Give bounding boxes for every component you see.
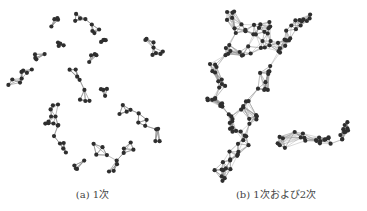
graph-node <box>227 150 231 154</box>
graph-node <box>236 150 240 154</box>
graph-node <box>220 168 224 172</box>
graph-node <box>228 167 232 171</box>
graph-node <box>25 71 29 75</box>
graph-node <box>53 114 57 118</box>
graph-node <box>258 22 262 26</box>
graph-node <box>82 88 86 92</box>
graph-node <box>156 127 160 131</box>
graph-node <box>49 107 53 111</box>
graph-node <box>293 18 297 22</box>
graph-node <box>266 70 270 74</box>
graph-node <box>30 67 34 71</box>
graph-node <box>229 114 233 118</box>
graph-node <box>247 117 251 121</box>
graph-node <box>220 82 224 86</box>
graph-node <box>210 98 214 102</box>
graph-node <box>94 153 98 157</box>
graph-node <box>161 50 165 54</box>
graph-node <box>105 153 109 157</box>
graph-node <box>239 108 243 112</box>
graph-node <box>243 28 247 32</box>
graph-node <box>301 131 305 135</box>
graph-node <box>240 54 244 58</box>
graph-node <box>260 39 264 43</box>
graph-node <box>74 68 78 72</box>
graph-node <box>252 23 256 27</box>
graph-node <box>268 25 272 29</box>
graph-node <box>232 9 236 13</box>
graph-node <box>246 44 250 48</box>
graph-node <box>322 138 326 142</box>
graph-node <box>115 162 119 166</box>
graph-node <box>51 121 55 125</box>
graph-node <box>104 38 108 42</box>
graph-node <box>338 133 342 137</box>
graph-node <box>234 31 238 35</box>
graph-node <box>224 166 228 170</box>
graph-node <box>220 78 224 82</box>
graph-node <box>301 17 305 21</box>
graph-node <box>249 51 253 55</box>
graph-node <box>232 26 236 30</box>
graph-node <box>276 41 280 45</box>
graph-node <box>220 101 224 105</box>
graph-node <box>10 77 14 81</box>
graph-node <box>284 29 288 33</box>
graph-node <box>73 19 77 23</box>
graph-node <box>137 111 141 115</box>
graph-node <box>62 141 66 145</box>
graph-node <box>217 86 221 90</box>
graph-node <box>83 17 87 21</box>
graph-node <box>230 16 234 20</box>
caption-a: (a) 1次 <box>0 186 185 201</box>
graph-node <box>43 52 47 56</box>
graph-node <box>302 136 306 140</box>
network-b-svg <box>185 0 367 185</box>
graph-node <box>51 103 55 107</box>
graph-node <box>145 118 149 122</box>
network-graph-first-order <box>0 0 185 185</box>
graph-node <box>154 51 158 55</box>
graph-node <box>143 124 147 128</box>
graph-node <box>236 142 240 146</box>
graph-node <box>105 87 109 91</box>
graph-node <box>308 13 312 17</box>
graph-node <box>221 160 225 164</box>
graph-node <box>283 146 287 150</box>
graph-node <box>33 52 37 56</box>
graph-node <box>213 168 217 172</box>
graph-node <box>74 12 78 16</box>
graph-node <box>234 129 238 133</box>
graph-node <box>267 20 271 24</box>
graph-node <box>136 121 140 125</box>
graph-node <box>293 130 297 134</box>
graph-node <box>92 142 96 146</box>
graph-node <box>83 99 87 103</box>
graph-node <box>299 23 303 27</box>
network-graph-first-and-second-order <box>185 0 367 185</box>
graph-node <box>278 51 282 55</box>
graph-node <box>239 129 243 133</box>
graph-node <box>269 39 273 43</box>
graph-node <box>75 75 79 79</box>
graph-node <box>263 45 267 49</box>
graph-node <box>122 147 126 151</box>
graph-node <box>58 141 62 145</box>
graph-node <box>262 88 266 92</box>
graph-node <box>224 46 228 50</box>
graph-node <box>247 122 251 126</box>
graph-node <box>115 159 119 163</box>
graph-node <box>144 37 148 41</box>
graph-node <box>288 36 292 40</box>
nodes <box>205 9 350 183</box>
graph-node <box>278 46 282 50</box>
graph-node <box>78 16 82 20</box>
graph-node <box>158 139 162 143</box>
graph-node <box>258 71 262 75</box>
graph-node <box>345 120 349 124</box>
graph-node <box>18 81 22 85</box>
graph-node <box>97 27 101 31</box>
graph-node <box>230 119 234 123</box>
graph-node <box>225 10 229 14</box>
graph-node <box>55 16 59 20</box>
